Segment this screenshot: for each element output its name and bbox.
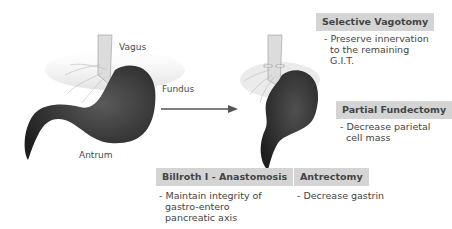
transition-arrow-icon	[160, 104, 240, 114]
selective-vagotomy-title: Selective Vagotomy	[316, 13, 434, 31]
selective-vagotomy-description: - Preserve innervation to the remaining …	[324, 33, 429, 66]
vagus-label: Vagus	[119, 42, 146, 52]
fundus-label: Fundus	[162, 84, 194, 94]
antrectomy-description: - Decrease gastrin	[297, 190, 384, 201]
antrectomy-title: Antrectomy	[294, 168, 369, 186]
partial-fundectomy-description: - Decrease parietal cell mass	[340, 121, 430, 143]
partial-fundectomy-title: Partial Fundectomy	[336, 101, 452, 119]
antrum-label: Antrum	[79, 150, 113, 160]
billroth-anastomosis-title: Billroth I - Anastomosis	[156, 168, 293, 186]
billroth-anastomosis-description: - Maintain integrity of gastro-entero pa…	[159, 190, 262, 223]
